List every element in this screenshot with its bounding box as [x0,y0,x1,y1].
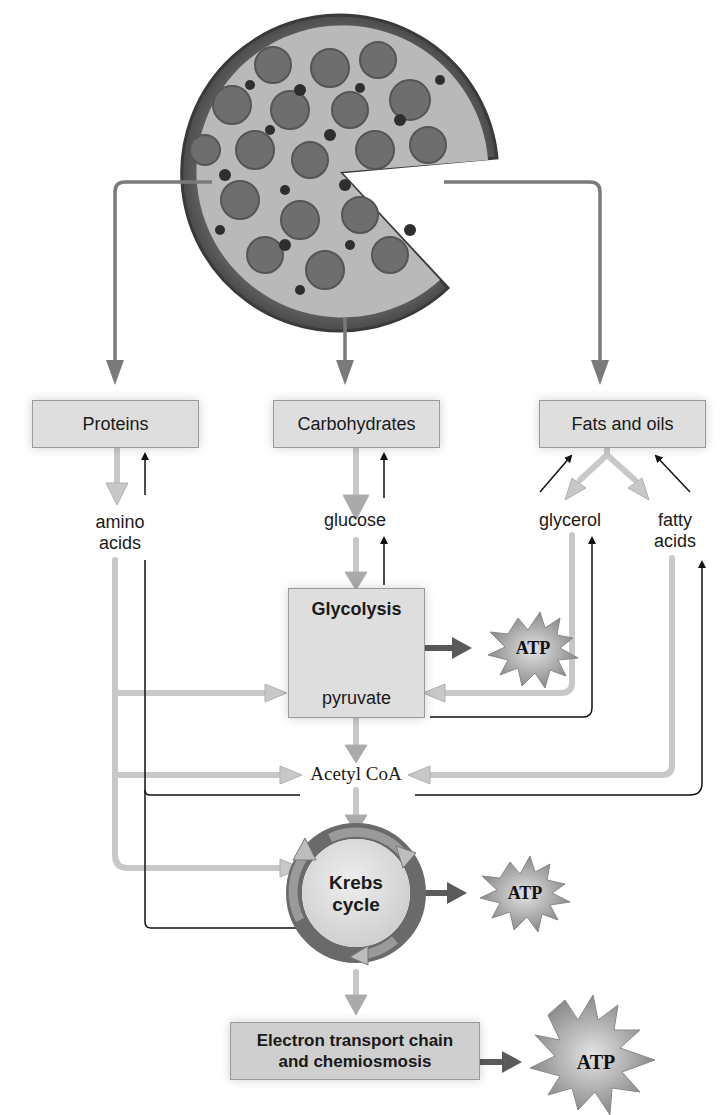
carbohydrates-box: Carbohydrates [273,400,440,448]
fats-box: Fats and oils [539,400,706,448]
glycolysis-title: Glycolysis [311,599,401,620]
glucose-label: glucose [305,510,405,531]
pathway-diagram [0,0,727,1115]
atp-label-krebs: ATP [485,880,565,906]
krebs-cycle-label: Krebs cycle [316,872,396,916]
krebs-line1: Krebs [316,872,396,894]
fats-label: Fats and oils [571,414,673,435]
pizza-icon [182,15,497,331]
carbohydrates-label: Carbohydrates [297,414,415,435]
krebs-line2: cycle [316,894,396,916]
amino-acids-label: amino acids [75,512,165,554]
acetyl-coa-label: Acetyl CoA [296,763,416,784]
fatty-acids-label: fatty acids [630,510,720,552]
atp-arrowheads [447,637,522,1073]
pyruvate-label: pyruvate [322,688,391,709]
proteins-label: Proteins [82,414,148,435]
atp-arrows [415,648,505,1062]
atp-label-etc: ATP [550,1048,642,1076]
glycolysis-box: Glycolysis pyruvate [288,588,425,718]
glycerol-label: glycerol [520,510,620,531]
proteins-box: Proteins [32,400,199,448]
etc-line1: Electron transport chain [257,1030,453,1051]
electron-transport-box: Electron transport chain and chemiosmosi… [230,1022,480,1080]
digestion-arrowheads [106,360,609,385]
etc-line2: and chemiosmosis [278,1051,431,1072]
atp-label-glycolysis: ATP [493,635,573,661]
